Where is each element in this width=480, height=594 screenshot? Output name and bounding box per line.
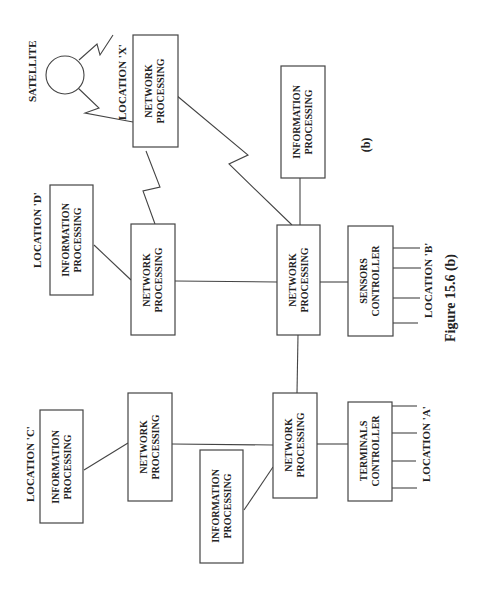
svg-text:PROCESSING: PROCESSING [295, 412, 306, 477]
information-processing-a-box: INFORMATION PROCESSING [200, 450, 243, 563]
location-b-label: LOCATION 'B' [422, 243, 434, 318]
svg-text:INFORMATION: INFORMATION [60, 202, 71, 276]
svg-text:PROCESSING: PROCESSING [153, 247, 164, 312]
location-x-label: LOCATION 'X' [116, 44, 128, 120]
network-diagram: SATELLITE LOCATION 'X' NETWORK PROCESSIN… [0, 0, 480, 594]
svg-text:NETWORK: NETWORK [143, 64, 154, 118]
network-processing-x-box: NETWORK PROCESSING [133, 35, 178, 147]
link-infoa-to-a [244, 467, 273, 510]
information-processing-b-box: INFORMATION PROCESSING [281, 66, 325, 178]
network-processing-b-box: NETWORK PROCESSING [277, 225, 320, 335]
location-d-label: LOCATION 'D' [31, 192, 43, 268]
sensors-controller-box: SENSORS CONTROLLER [348, 226, 393, 336]
satellite-icon [46, 56, 84, 94]
svg-text:CONTROLLER: CONTROLLER [370, 245, 381, 317]
svg-text:PROCESSING: PROCESSING [150, 414, 161, 479]
svg-text:SENSORS: SENSORS [358, 258, 369, 304]
svg-text:INFORMATION: INFORMATION [210, 468, 221, 542]
svg-text:INFORMATION: INFORMATION [50, 429, 61, 503]
information-processing-d-box: INFORMATION PROCESSING [50, 185, 93, 295]
link-b-to-a [297, 335, 298, 393]
svg-text:CONTROLLER: CONTROLLER [370, 415, 381, 487]
svg-text:PROCESSING: PROCESSING [72, 207, 83, 272]
satellite-uplink [79, 35, 113, 60]
svg-text:PROCESSING: PROCESSING [222, 473, 233, 538]
terminals-controller-box: TERMINALS CONTROLLER [348, 402, 392, 501]
network-processing-c-box: NETWORK PROCESSING [128, 393, 172, 501]
svg-text:PROCESSING: PROCESSING [299, 247, 310, 312]
information-processing-c-box: INFORMATION PROCESSING [40, 410, 83, 523]
figure-caption: Figure 15.6 (b) [443, 254, 459, 342]
network-processing-a-box: NETWORK PROCESSING [273, 393, 317, 498]
svg-text:NETWORK: NETWORK [141, 253, 152, 307]
svg-text:NETWORK: NETWORK [283, 418, 294, 472]
link-x-to-b [176, 95, 292, 225]
link-c-to-a [172, 444, 273, 445]
svg-text:NETWORK: NETWORK [138, 420, 149, 474]
svg-text:NETWORK: NETWORK [287, 253, 298, 307]
svg-text:PROCESSING: PROCESSING [62, 434, 73, 499]
svg-text:INFORMATION: INFORMATION [291, 84, 302, 158]
location-c-label: LOCATION 'C' [24, 426, 36, 502]
svg-text:PROCESSING: PROCESSING [303, 89, 314, 154]
sublabel-b: (b) [359, 138, 373, 153]
link-infod-to-d [94, 245, 131, 280]
svg-text:PROCESSING: PROCESSING [155, 58, 166, 123]
location-a-label: LOCATION 'A' [420, 406, 432, 482]
network-processing-d-box: NETWORK PROCESSING [131, 224, 175, 335]
link-d-to-b [175, 281, 277, 282]
link-x-to-d [143, 151, 160, 224]
svg-text:TERMINALS: TERMINALS [358, 420, 369, 481]
satellite-label: SATELLITE [26, 40, 38, 102]
link-infoc-to-c [84, 443, 128, 470]
